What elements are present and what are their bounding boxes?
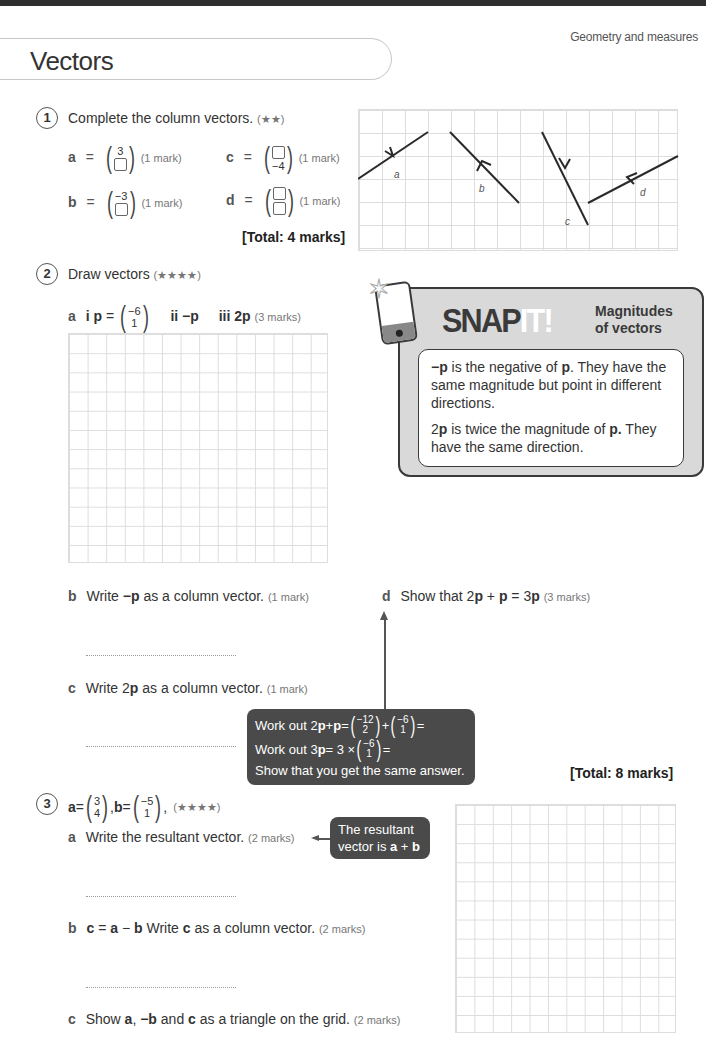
vector-diagram: a b c d — [358, 109, 680, 255]
vector-top: 3 — [117, 145, 123, 157]
connector-line — [318, 838, 330, 840]
q1-prompt-text: Complete the column vectors. — [68, 110, 253, 126]
q3c-line: c Show a, −b and c as a triangle on the … — [68, 1011, 400, 1027]
snapit-content: −p is the negative of p. They have the s… — [418, 349, 684, 467]
vector-bottom: 1 — [366, 749, 372, 759]
column-vector-b: ( −3 ) — [105, 188, 138, 218]
q3a-hint-box: The resultant vector is a + b — [330, 817, 430, 859]
topic-label: Geometry and measures — [570, 30, 698, 44]
answer-line-3a[interactable] — [86, 896, 236, 897]
text: is twice the magnitude of — [447, 421, 609, 437]
text: = — [341, 718, 349, 733]
difficulty-stars: (★★) — [257, 113, 284, 125]
question-number-1: 1 — [36, 107, 58, 129]
text: + — [483, 588, 499, 604]
bold: p — [333, 718, 341, 733]
question-number-3: 3 — [36, 793, 58, 815]
part-label: c — [68, 1011, 76, 1027]
text: = — [76, 799, 84, 815]
answer-line-2b[interactable] — [86, 655, 236, 656]
vector-label-c: c — [565, 216, 570, 227]
part-label: b — [68, 588, 77, 604]
subpart-label: iii — [219, 308, 231, 324]
subpart-label: ii — [170, 308, 178, 324]
column-vector-a: ( 3 ) — [104, 143, 137, 173]
bold: −p — [123, 588, 140, 604]
item-label: a — [68, 149, 76, 165]
bold: p — [474, 588, 483, 604]
subtitle-line: of vectors — [595, 320, 673, 337]
vector-top: −3 — [115, 190, 128, 202]
q2d-line: d Show that 2p + p = 3p (3 marks) — [382, 588, 590, 604]
text: is the negative of — [448, 359, 562, 375]
answer-box[interactable] — [273, 202, 286, 215]
part-label: c — [68, 680, 76, 696]
difficulty-stars: (★★★★) — [154, 269, 201, 281]
q2-drawing-grid[interactable] — [68, 333, 328, 563]
snapit-panel: SNAPIT! Magnitudesof vectors −p is the n… — [398, 287, 704, 477]
text: as a column vector. — [140, 588, 265, 604]
q1-prompt: Complete the column vectors. (★★) — [68, 110, 284, 126]
equals: = — [106, 308, 114, 324]
item-label: c — [226, 149, 234, 165]
q2a-line: a i p = ( −61 ) ii −p iii 2p (3 marks) — [68, 302, 301, 332]
subpart-label: i — [86, 308, 90, 324]
snapit-title-light: IT! — [520, 301, 552, 339]
text: = — [123, 799, 131, 815]
answer-line-2c[interactable] — [86, 746, 236, 747]
item-label: b — [68, 194, 77, 210]
q2b-line: b Write −p as a column vector. (1 mark) — [68, 588, 309, 604]
marks: (1 mark) — [141, 197, 182, 209]
vector-top: −6 — [128, 305, 141, 317]
text: = 3 × — [326, 742, 356, 757]
column-vector-d: ( ) — [263, 186, 296, 216]
q3-drawing-grid[interactable] — [455, 804, 676, 1033]
part-label: b — [68, 920, 77, 936]
part-label: d — [382, 588, 391, 604]
text: vector is — [338, 839, 390, 854]
vector-name: b — [114, 799, 123, 815]
answer-box[interactable] — [273, 187, 286, 200]
bold: −b — [140, 1011, 157, 1027]
q1-item-c: c = ( −4 ) (1 mark) — [226, 143, 340, 173]
q2-prompt-text: Draw vectors — [68, 266, 150, 282]
vector-top: −5 — [141, 795, 154, 807]
column-vector-c: ( −4 ) — [262, 143, 295, 173]
page-title: Vectors — [30, 46, 113, 77]
vector-bottom: 1 — [400, 725, 406, 735]
item-label: d — [226, 192, 235, 208]
subpart-text: 2p — [234, 308, 250, 324]
bold: p. — [609, 421, 621, 437]
text: + — [382, 718, 390, 733]
vector-top: 3 — [94, 795, 100, 807]
q2c-line: c Write 2p as a column vector. (1 mark) — [68, 680, 308, 696]
marks: (1 mark) — [267, 683, 308, 695]
answer-line-3b[interactable] — [86, 987, 236, 988]
text: as a column vector. — [138, 680, 263, 696]
answer-box[interactable] — [114, 158, 127, 171]
marks: (1 mark) — [268, 591, 309, 603]
sparkle-star-icon: ✶ — [368, 274, 390, 305]
text: + — [326, 718, 334, 733]
vector-label-d: d — [640, 187, 646, 198]
marks: (2 marks) — [319, 923, 365, 935]
part-label: a — [68, 829, 76, 845]
bold: c — [183, 920, 191, 936]
vector-bottom: 1 — [144, 807, 150, 819]
text: = 3 — [507, 588, 531, 604]
vector-bottom: 4 — [94, 807, 100, 819]
marks: (1 mark) — [141, 152, 182, 164]
part-label: a — [68, 308, 76, 324]
vector-label-a: a — [394, 169, 400, 180]
answer-box[interactable] — [115, 203, 128, 216]
text: Write 2 — [86, 680, 130, 696]
bold: p — [561, 359, 570, 375]
column-vector-p: ( −61 ) — [118, 302, 151, 332]
q3-prompt: a = (34) , b = (−51) , (★★★★) — [68, 792, 221, 822]
text: − — [118, 920, 134, 936]
q2-prompt: Draw vectors (★★★★) — [68, 266, 201, 282]
difficulty-stars: (★★★★) — [173, 801, 220, 814]
text: = — [94, 920, 110, 936]
vector-bottom: 2 — [362, 725, 368, 735]
answer-box[interactable] — [272, 146, 285, 159]
